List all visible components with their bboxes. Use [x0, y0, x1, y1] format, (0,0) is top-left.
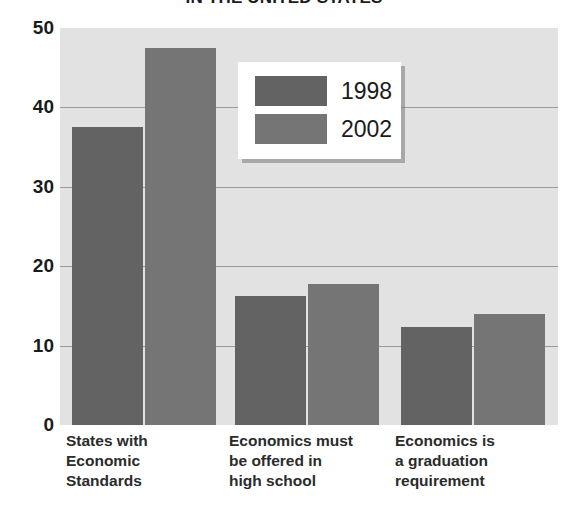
bar-1998-group-3 — [401, 327, 472, 425]
bar-chart: IN THE UNITED STATES States withEconomic… — [0, 0, 568, 520]
x-axis-label-line: Standards — [66, 471, 226, 491]
x-axis-label-line: Economics is — [395, 431, 555, 451]
y-axis-tick-40: 40 — [10, 97, 54, 116]
legend-swatch-1998 — [255, 76, 327, 106]
x-axis-label-line: Economics must — [229, 431, 389, 451]
legend-swatch-2002 — [255, 114, 327, 144]
chart-legend: 19982002 — [238, 62, 401, 159]
bar-2002-group-3 — [474, 314, 545, 425]
x-axis-label-group-3: Economics isa graduationrequirement — [395, 431, 555, 490]
bar-1998-group-2 — [235, 296, 306, 425]
x-axis-label-line: requirement — [395, 471, 555, 491]
x-axis-label-line: a graduation — [395, 451, 555, 471]
x-axis-labels: States withEconomicStandardsEconomics mu… — [60, 431, 558, 511]
x-axis-label-line: States with — [66, 431, 226, 451]
x-axis-label-line: be offered in — [229, 451, 389, 471]
x-axis-label-line: high school — [229, 471, 389, 491]
bar-1998-group-1 — [72, 127, 143, 425]
x-axis-label-line: Economic — [66, 451, 226, 471]
x-axis-label-group-2: Economics mustbe offered inhigh school — [229, 431, 389, 490]
chart-title: IN THE UNITED STATES — [0, 0, 568, 8]
legend-label-1998: 1998 — [341, 77, 392, 105]
y-axis-tick-30: 30 — [10, 177, 54, 196]
bar-2002-group-1 — [145, 48, 216, 425]
y-axis-tick-50: 50 — [10, 18, 54, 37]
legend-label-2002: 2002 — [341, 115, 392, 143]
bar-2002-group-2 — [308, 284, 379, 425]
x-axis-label-group-1: States withEconomicStandards — [66, 431, 226, 490]
y-axis-tick-0: 0 — [10, 415, 54, 434]
y-axis-tick-10: 10 — [10, 336, 54, 355]
y-axis-tick-20: 20 — [10, 256, 54, 275]
